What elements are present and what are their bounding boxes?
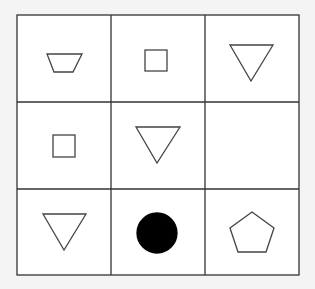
figure-matrix-puzzle (0, 0, 315, 289)
cell-r3c2 (137, 213, 177, 253)
filled-circle-icon (137, 213, 177, 253)
